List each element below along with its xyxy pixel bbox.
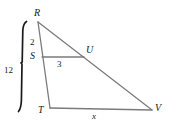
vertex-label-U: U (86, 45, 93, 55)
measure-label-RT: 12 (4, 66, 13, 75)
figure-canvas (0, 0, 170, 125)
vertex-label-T: T (38, 105, 44, 115)
geometry-figure: R S T U V 2 3 12 x (0, 0, 170, 125)
vertex-label-R: R (34, 8, 40, 18)
measure-label-SU: 3 (57, 60, 62, 69)
segment-TV (50, 108, 152, 110)
measure-label-TV: x (92, 112, 96, 121)
segment-RT (38, 22, 50, 108)
measure-label-RS: 2 (30, 38, 35, 47)
vertex-label-V: V (155, 103, 161, 113)
bracket-RT (19, 22, 27, 112)
vertex-label-S: S (30, 51, 35, 61)
segment-RV (38, 22, 152, 110)
